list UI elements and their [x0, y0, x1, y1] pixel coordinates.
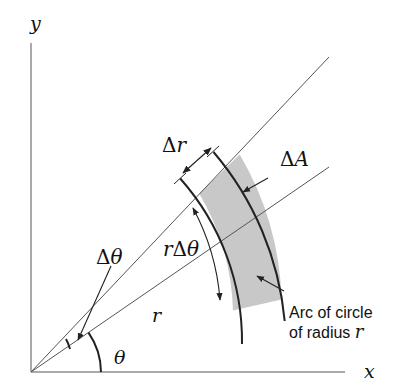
polar-area-diagram: y x Δr ΔA rΔθ Δθ r θ Arc of circle of ra…: [0, 0, 401, 391]
delta-a-var: A: [292, 147, 308, 171]
theta-label: θ: [114, 346, 126, 368]
delta-r-var: r: [176, 133, 187, 157]
y-axis-label: y: [29, 12, 41, 34]
delta-a-label: ΔA: [280, 147, 309, 171]
arc-note-line-1: Arc of circle: [289, 304, 373, 321]
lower-ray: [31, 167, 329, 372]
area-element-delta-a: [199, 154, 281, 310]
theta-var: θ: [187, 237, 199, 261]
delta-symbol: Δ: [280, 147, 294, 171]
x-axis-label: x: [364, 360, 375, 382]
theta-var: θ: [110, 245, 122, 269]
radius-label: r: [152, 304, 163, 326]
r-delta-theta-label: rΔθ: [163, 237, 199, 261]
delta-symbol: Δ: [173, 237, 187, 261]
delta-theta-label: Δθ: [96, 245, 123, 269]
delta-r-label: Δr: [162, 133, 187, 157]
theta-arc: [89, 333, 102, 372]
arc-note-var: r: [355, 321, 365, 342]
arc-note-text: of radius: [289, 324, 355, 341]
delta-r-dimension-arrow: [183, 148, 211, 173]
arc-note-line-2: of radius r: [289, 321, 365, 342]
delta-symbol: Δ: [96, 245, 110, 269]
delta-symbol: Δ: [162, 133, 176, 157]
upper-ray: [31, 57, 329, 372]
